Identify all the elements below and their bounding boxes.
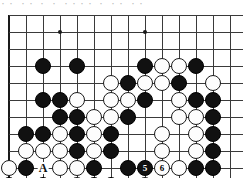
star-point [58, 30, 62, 34]
stone-black[interactable] [137, 92, 153, 108]
stone-black[interactable] [52, 92, 68, 108]
stone-black[interactable] [18, 126, 34, 142]
stone-black[interactable] [171, 75, 187, 91]
board-label-a: A [38, 162, 49, 174]
stone-white[interactable] [154, 58, 170, 74]
stone-white[interactable] [188, 143, 204, 159]
stone-black[interactable] [188, 160, 204, 176]
stone-white[interactable] [171, 109, 187, 125]
stone-black[interactable] [69, 126, 85, 142]
caption-text: ・・ ・・ ・ ・ ・・・・ ・ ・・ ・・ [0, 0, 243, 9]
stone-black[interactable] [120, 109, 136, 125]
stone-white[interactable] [103, 109, 119, 125]
stone-white[interactable] [154, 143, 170, 159]
stone-black[interactable] [18, 160, 34, 176]
stone-white[interactable] [103, 92, 119, 108]
stone-white[interactable] [205, 75, 221, 91]
stone-white[interactable] [171, 92, 187, 108]
stone-white[interactable] [188, 109, 204, 125]
stone-black[interactable] [188, 92, 204, 108]
stone-white[interactable] [52, 126, 68, 142]
stone-black[interactable] [35, 177, 51, 178]
stone-white[interactable] [120, 92, 136, 108]
stone-white[interactable] [154, 126, 170, 142]
stone-white[interactable] [86, 126, 102, 142]
stone-black[interactable] [120, 160, 136, 176]
move-stone-2[interactable]: 2 [69, 177, 85, 178]
stone-white[interactable] [86, 143, 102, 159]
stone-white[interactable] [171, 160, 187, 176]
stone-black[interactable] [69, 58, 85, 74]
stone-black[interactable] [205, 143, 221, 159]
stone-black[interactable] [188, 58, 204, 74]
move-stone-3[interactable]: 3 [103, 177, 119, 178]
stone-white[interactable] [188, 126, 204, 142]
stone-black[interactable] [205, 160, 221, 176]
stone-white[interactable] [154, 75, 170, 91]
move-stone-4[interactable]: 4 [137, 177, 153, 178]
stone-white[interactable] [69, 92, 85, 108]
stone-black[interactable] [86, 160, 102, 176]
stone-black[interactable] [35, 92, 51, 108]
stone-black[interactable] [69, 109, 85, 125]
stone-black[interactable] [69, 143, 85, 159]
stone-white[interactable] [1, 160, 17, 176]
stone-black[interactable] [35, 58, 51, 74]
stone-white[interactable] [52, 143, 68, 159]
stone-white[interactable] [171, 58, 187, 74]
star-point [143, 30, 147, 34]
grid-line-vertical [230, 15, 231, 178]
stone-white[interactable] [52, 160, 68, 176]
stone-white[interactable] [35, 143, 51, 159]
go-board[interactable]: 723456ABC [0, 9, 243, 178]
stone-black[interactable] [52, 109, 68, 125]
stone-black[interactable] [205, 126, 221, 142]
stone-white[interactable] [137, 75, 153, 91]
move-stone-6[interactable]: 6 [154, 160, 170, 176]
stone-black[interactable] [205, 109, 221, 125]
stone-black[interactable] [120, 75, 136, 91]
go-diagram-root: ・・ ・・ ・ ・ ・・・・ ・ ・・ ・・ 723456ABC [0, 0, 243, 178]
stone-white[interactable] [18, 143, 34, 159]
stone-white[interactable] [69, 160, 85, 176]
grid-line-horizontal [9, 15, 243, 16]
stone-black[interactable] [137, 58, 153, 74]
move-stone-5[interactable]: 5 [137, 160, 153, 176]
grid-line-horizontal [9, 32, 243, 33]
stone-black[interactable] [103, 143, 119, 159]
move-stone-7[interactable]: 7 [1, 177, 17, 178]
grid-line-horizontal [9, 49, 243, 50]
grid-line-vertical [8, 15, 10, 178]
stone-black[interactable] [86, 177, 102, 178]
stone-black[interactable] [35, 126, 51, 142]
stone-white[interactable] [103, 75, 119, 91]
stone-white[interactable] [86, 109, 102, 125]
stone-black[interactable] [205, 92, 221, 108]
stone-black[interactable] [103, 126, 119, 142]
